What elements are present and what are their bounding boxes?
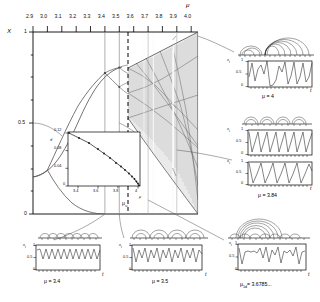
main-ytick-0.5: 0.5 xyxy=(18,120,25,125)
panel-mu384-ytick-0: 0 xyxy=(241,182,243,186)
inset-ytick-0: 0 xyxy=(63,183,65,187)
panel-mu34-caption: μ = 3.4 xyxy=(44,278,60,284)
mu-infinity-label: μ∞ xyxy=(122,201,128,209)
main-x-ticks xyxy=(33,26,191,32)
inset-ytick-0.08: 0.08 xyxy=(54,147,61,151)
panel-mu384b-ytick-0: 0 xyxy=(241,152,243,156)
panel-mu35-arc-diagram xyxy=(130,230,208,240)
panel-mu1d-arc-diagram xyxy=(228,219,310,240)
panel-mu4-ytick-1: 1 xyxy=(241,59,243,63)
panel-mu384b-arc-diagram xyxy=(242,117,312,126)
panel-mu34-arc-diagram xyxy=(38,234,102,241)
main-xtick-3.6: 3.6 xyxy=(127,14,134,19)
panel-mu4-ytick-0.5: 0.5 xyxy=(236,71,241,75)
panel-mu34-svg xyxy=(4,224,108,286)
main-y-axis-label: X xyxy=(7,27,11,34)
inset-xtick-3.4: 3.4 xyxy=(73,190,78,194)
panel-mu4-xlabel: t xyxy=(310,88,311,93)
panel-mu35-ytick-0.5: 0.5 xyxy=(123,256,128,260)
panel-mu34-ytick-1: 1 xyxy=(33,244,35,248)
panel-mu4-caption: μ = 4 xyxy=(262,93,274,99)
panel-mu384b-ylabel: xt xyxy=(227,128,230,133)
inset-x-axis-label: μ xyxy=(139,196,141,200)
inset-d-vs-mu-svg xyxy=(54,128,146,200)
main-xtick-2.9: 2.9 xyxy=(26,14,33,19)
panel-mu34-xlabel: t xyxy=(102,272,103,277)
inset-xtick-3.8: 3.8 xyxy=(113,190,118,194)
panel-mu384-frame xyxy=(248,162,312,185)
panel-mu35-xlabel: t xyxy=(205,272,206,277)
panel-mu384-ytick-1: 1 xyxy=(241,160,243,164)
main-xtick-3.1: 3.1 xyxy=(55,14,62,19)
panel-mu35-frame xyxy=(132,245,202,270)
panel-mu1d-ytick-0.5: 0.5 xyxy=(229,255,234,259)
inset-frame xyxy=(68,132,140,186)
panel-mu384b-svg xyxy=(232,108,320,162)
panel-mu34-ylabel: xt xyxy=(23,244,26,249)
panel-mu384-xlabel: t xyxy=(310,186,311,191)
inset-ytick-0.04: 0.04 xyxy=(54,165,61,169)
panel-mu35-ytick-1: 1 xyxy=(129,244,131,248)
panel-mu384-svg xyxy=(232,158,320,194)
panel-mu384-ytick-0.5: 0.5 xyxy=(236,171,241,175)
panel-mu384b-ytick-1: 1 xyxy=(241,128,243,132)
panel-mu384-ylabel: xt xyxy=(227,160,230,165)
main-x-axis-label: μ xyxy=(186,1,189,8)
panel-mu1d-caption: μ1d= 3.6785... xyxy=(240,281,272,289)
panel-mu4-svg xyxy=(232,33,320,95)
panel-mu34-ytick-0.5: 0.5 xyxy=(27,256,32,260)
main-xtick-3.7: 3.7 xyxy=(141,14,148,19)
main-xtick-3.2: 3.2 xyxy=(69,14,76,19)
inset-y-axis-label: d xyxy=(50,139,52,143)
main-xtick-4.0: 4.0 xyxy=(184,14,191,19)
panel-mu384-caption: μ = 3.84 xyxy=(258,192,277,198)
panel-mu1d-ytick-1: 1 xyxy=(235,242,237,246)
main-xtick-3.0: 3.0 xyxy=(40,14,47,19)
panel-mu1d-xlabel: t xyxy=(308,272,309,277)
main-xtick-3.3: 3.3 xyxy=(83,14,90,19)
main-xtick-3.5: 3.5 xyxy=(112,14,119,19)
inset-xtick-4: 4 xyxy=(135,190,137,194)
panel-mu35-ytick-0: 0 xyxy=(129,268,131,272)
main-ytick-0: 0 xyxy=(24,211,27,216)
panel-mu34-ytick-0: 0 xyxy=(33,268,35,272)
main-y-ticks xyxy=(29,32,33,214)
inset-ytick-0.12: 0.12 xyxy=(54,129,61,133)
panel-mu1d-svg xyxy=(216,218,320,286)
panel-mu35-caption: μ = 3.5 xyxy=(152,278,168,284)
main-xtick-3.9: 3.9 xyxy=(170,14,177,19)
panel-mu1d-ytick-0: 0 xyxy=(235,268,237,272)
figure-root: 2.9 3.0 3.1 3.2 3.3 3.4 3.5 3.6 3.7 3.8 … xyxy=(0,0,320,302)
panel-mu4-arc-diagram xyxy=(238,38,314,57)
main-xtick-3.8: 3.8 xyxy=(155,14,162,19)
panel-mu4-ylabel: xt xyxy=(227,59,230,64)
main-xtick-3.4: 3.4 xyxy=(98,14,105,19)
panel-mu1d-ylabel: xt xyxy=(229,242,232,247)
panel-mu35-ylabel: xt xyxy=(119,244,122,249)
panel-mu384b-ytick-0.5: 0.5 xyxy=(236,140,241,144)
panel-mu4-ytick-0: 0 xyxy=(241,84,243,88)
main-ytick-1: 1 xyxy=(24,29,27,34)
inset-xtick-3.6: 3.6 xyxy=(93,190,98,194)
